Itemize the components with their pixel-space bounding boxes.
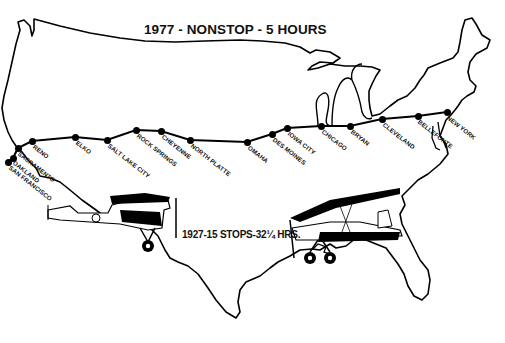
great-lakes-outline [316,64,372,126]
biplane-right-illustration [290,188,402,264]
map-title: 1977 - NONSTOP - 5 HOURS [144,22,327,37]
caption-1927: 1927-15 STOPS-32¼ HRS. [182,229,300,240]
usa-outline-map [0,0,505,343]
biplane-left-illustration [48,193,176,252]
us-border-outline [2,18,490,318]
